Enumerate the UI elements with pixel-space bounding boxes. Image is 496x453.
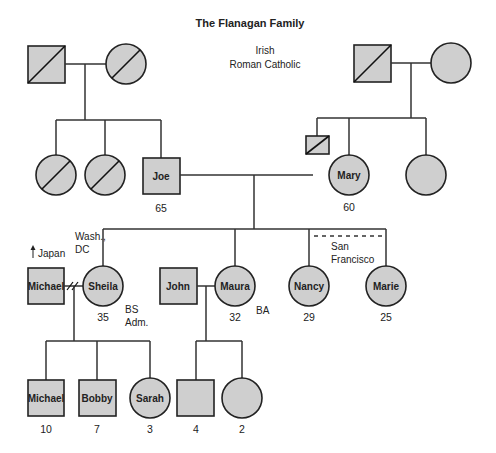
person-marie: Marie 25: [366, 266, 406, 323]
sf-location-line2: Francisco: [331, 254, 375, 265]
person-age: 3: [147, 423, 153, 435]
person-age: 25: [380, 311, 392, 323]
paternal-grandfather: [28, 46, 65, 83]
person-nancy: Nancy 29: [289, 266, 329, 323]
paternal-grandmother: [106, 44, 146, 84]
person-maura-son: 4: [177, 380, 214, 435]
person-sheila: Sheila 35: [83, 266, 123, 323]
person-name: Joe: [152, 171, 170, 182]
sheila-location-line2: DC: [75, 244, 89, 255]
person-age: 4: [193, 423, 199, 435]
genogram-title: The Flanagan Family: [196, 17, 306, 29]
heritage-ethnicity: Irish: [256, 45, 275, 56]
person-name: Marie: [373, 281, 400, 292]
person-age: 35: [97, 311, 109, 323]
maternal-grandmother: [431, 43, 471, 83]
maternal-grandfather: [354, 45, 391, 82]
maura-education: BA: [256, 305, 270, 316]
sheila-location-line1: Wash.,: [75, 231, 106, 242]
person-maura-daughter: 2: [222, 378, 262, 435]
person-name: Mary: [337, 170, 361, 181]
paternal-aunt-2: [85, 155, 125, 195]
genogram-svg: The Flanagan Family Irish Roman Catholic…: [0, 0, 496, 453]
person-mary: Mary 60: [329, 155, 369, 213]
person-age: 29: [303, 311, 315, 323]
maternal-aunt: [406, 155, 446, 195]
maternal-uncle: [306, 136, 329, 154]
genogram-canvas: The Flanagan Family Irish Roman Catholic…: [0, 0, 496, 453]
person-joe: Joe 65: [143, 158, 180, 214]
person-john: John: [160, 268, 197, 304]
person-name: Michael: [28, 281, 65, 292]
person-michael-sr: Michael: [28, 268, 65, 304]
person-sarah: Sarah 3: [130, 378, 170, 435]
person-name: Sarah: [136, 393, 164, 404]
person-name: John: [166, 281, 190, 292]
paternal-aunt-1: [36, 155, 76, 195]
person-age: 10: [40, 423, 52, 435]
japan-label: Japan: [38, 248, 65, 259]
sf-location-line1: San: [331, 241, 349, 252]
person-name: Sheila: [88, 281, 118, 292]
person-name: Maura: [220, 281, 250, 292]
person-name: Nancy: [294, 281, 324, 292]
person-age: 2: [239, 423, 245, 435]
person-name: Michael: [28, 393, 65, 404]
person-age: 60: [343, 201, 355, 213]
person-age: 65: [155, 202, 167, 214]
person-age: 32: [229, 311, 241, 323]
person-bobby: Bobby 7: [79, 380, 116, 435]
sheila-education-line2: Adm.: [125, 317, 148, 328]
arrow-up-icon-head: [31, 245, 36, 250]
person-maura: Maura 32: [215, 266, 255, 323]
person-michael-jr: Michael 10: [28, 380, 65, 435]
heritage-religion: Roman Catholic: [229, 59, 300, 70]
person-age: 7: [94, 423, 100, 435]
person-name: Bobby: [81, 393, 113, 404]
japan-note: Japan: [31, 245, 66, 259]
sheila-education-line1: BS: [125, 304, 139, 315]
